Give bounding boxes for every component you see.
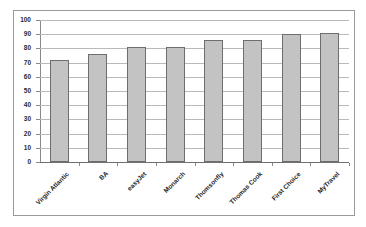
- gridline: [40, 63, 349, 64]
- gridline: [40, 105, 349, 106]
- gridline: [40, 134, 349, 135]
- bar: [320, 33, 339, 162]
- gridline: [40, 119, 349, 120]
- y-axis-tick-label: 30: [0, 115, 34, 122]
- bar: [282, 34, 301, 162]
- y-axis-tick-label: 100: [0, 16, 34, 23]
- x-axis-tick: [156, 163, 157, 166]
- gridline: [40, 77, 349, 78]
- gridline: [40, 48, 349, 49]
- plot-area: [40, 20, 349, 162]
- x-axis-tick: [310, 163, 311, 166]
- x-axis-tick: [233, 163, 234, 166]
- bar: [204, 40, 223, 162]
- y-axis-tick-label: 90: [0, 30, 34, 37]
- y-axis-tick-label: 60: [0, 73, 34, 80]
- gridline: [40, 20, 349, 21]
- y-axis-tick-label: 80: [0, 44, 34, 51]
- y-axis-tick-label: 70: [0, 59, 34, 66]
- bar: [127, 47, 146, 162]
- y-axis-tick-label: 10: [0, 144, 34, 151]
- x-axis-tick: [195, 163, 196, 166]
- y-axis-tick-label: 0: [0, 158, 34, 165]
- chart-figure: 0102030405060708090100 Virgin AtlanticBA…: [0, 0, 366, 227]
- y-axis-tick-label: 50: [0, 87, 34, 94]
- x-axis-tick: [117, 163, 118, 166]
- gridline: [40, 91, 349, 92]
- x-axis-tick: [272, 163, 273, 166]
- gridline: [40, 148, 349, 149]
- y-axis-tick-labels: 0102030405060708090100: [0, 0, 34, 227]
- bar: [88, 54, 107, 162]
- y-axis-tick-label: 40: [0, 101, 34, 108]
- y-axis-tick-label: 20: [0, 130, 34, 137]
- bar: [166, 47, 185, 162]
- bar: [50, 60, 69, 162]
- bar: [243, 40, 262, 162]
- x-axis-tick: [79, 163, 80, 166]
- x-axis-tick: [349, 163, 350, 166]
- gridline: [40, 34, 349, 35]
